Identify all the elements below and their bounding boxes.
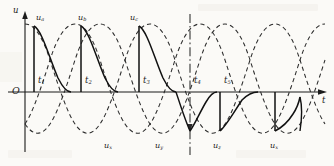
commutation-risers-lower	[220, 92, 275, 131]
solid-segment-x2	[275, 97, 300, 131]
solid-segment-z	[220, 92, 258, 131]
phase-label-sub: c	[135, 16, 138, 22]
time-label-sub: 2	[88, 79, 91, 85]
axes-group	[8, 11, 327, 152]
time-label-t5: t5	[224, 76, 231, 86]
time-label-sub: 1	[41, 79, 44, 85]
phase-label-u-x: ux	[104, 142, 112, 150]
phase-label-sub: b	[83, 16, 86, 22]
curve-u-b	[25, 24, 325, 133]
time-label-t3: t3	[143, 76, 150, 86]
x-axis-arrow	[318, 89, 327, 94]
curve-u-a	[25, 24, 325, 133]
phase-label-u-y: uy	[155, 142, 163, 150]
x-axis-label: t	[322, 96, 325, 105]
curve-u-c	[25, 24, 325, 133]
tail-right-edge	[300, 97, 302, 131]
time-label-sub: 3	[146, 79, 149, 85]
phase-label-sub: z	[218, 144, 221, 150]
commutation-reference-line	[187, 14, 192, 155]
phase-label-sub: x	[109, 144, 112, 150]
phase-label-u-b: ub	[78, 14, 86, 22]
solid-segment-x	[190, 92, 217, 131]
phase-label-u-z: uz	[213, 142, 221, 150]
phase-label-sub: y	[160, 144, 163, 150]
phase-curves-dashed	[25, 24, 325, 133]
y-axis-arrow	[22, 11, 28, 19]
time-label-t1: t1	[38, 76, 45, 86]
origin-label: O	[12, 86, 20, 96]
phase-label-u-c: uc	[130, 14, 138, 22]
conducting-envelope-lower	[190, 92, 300, 131]
phase-label-sub: a	[41, 16, 44, 22]
phase-label-sub: x	[275, 144, 278, 150]
waveform-figure	[0, 0, 334, 166]
time-label-sub: 5	[227, 79, 230, 85]
y-axis-label: u	[13, 6, 18, 15]
time-label-sub: 4	[197, 79, 200, 85]
phase-label-u-x2: ux	[270, 142, 278, 150]
conducting-envelope-upper	[34, 26, 176, 92]
time-label-t4: t4	[194, 76, 201, 86]
time-label-t2: t2	[85, 76, 92, 86]
phase-label-u-a: ua	[36, 14, 44, 22]
